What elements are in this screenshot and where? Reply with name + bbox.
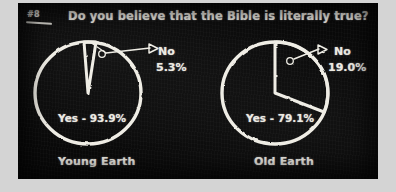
pie-chart-drawing bbox=[18, 3, 378, 179]
pie-label-yes-old-earth: Yes - 79.1% bbox=[246, 112, 314, 124]
pie-young-earth bbox=[35, 42, 141, 144]
leader-old-earth bbox=[287, 45, 327, 64]
pie-wedge-no-young-earth bbox=[84, 42, 96, 93]
pie-old-earth bbox=[222, 42, 328, 144]
pie-caption-old-earth: Old Earth bbox=[254, 155, 314, 168]
pie-value-no-young-earth: 5.3% bbox=[156, 61, 187, 74]
pie-label-no-young-earth: No bbox=[158, 45, 175, 58]
pie-label-yes-young-earth: Yes - 93.9% bbox=[58, 112, 126, 124]
pie-label-no-old-earth: No bbox=[334, 45, 351, 58]
screenshot-frame: #8 Do you believe that the Bible is lite… bbox=[0, 0, 396, 192]
pie-value-no-old-earth: 19.0% bbox=[328, 61, 366, 74]
chalkboard: #8 Do you believe that the Bible is lite… bbox=[18, 3, 378, 179]
pie-caption-young-earth: Young Earth bbox=[58, 155, 136, 168]
leader-dot-old-earth bbox=[287, 58, 294, 65]
